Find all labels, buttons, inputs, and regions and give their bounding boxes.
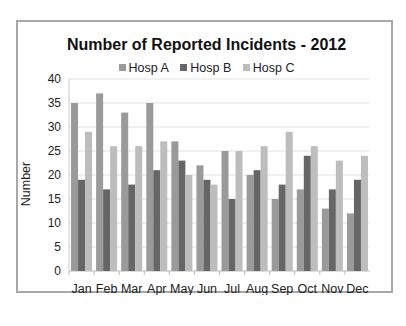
bar-hosp-a bbox=[96, 93, 103, 271]
x-tick-label: Jan bbox=[71, 282, 91, 295]
x-tick-label: Oct bbox=[298, 282, 318, 295]
y-tick-label: 0 bbox=[54, 264, 61, 278]
bar-hosp-a bbox=[247, 175, 254, 271]
bar-hosp-c bbox=[210, 185, 217, 271]
bar-hosp-a bbox=[196, 165, 203, 271]
x-tick-label: Jun bbox=[197, 282, 217, 295]
y-tick-label: 40 bbox=[48, 72, 62, 86]
bar-hosp-a bbox=[347, 213, 354, 271]
y-tick-label: 35 bbox=[48, 96, 62, 110]
y-tick-label: 10 bbox=[48, 216, 62, 230]
bar-hosp-b bbox=[203, 180, 210, 271]
bar-hosp-b bbox=[78, 180, 85, 271]
x-tick-label: Dec bbox=[346, 282, 368, 295]
x-tick-label: Jul bbox=[224, 282, 240, 295]
x-tick-label: Aug bbox=[246, 282, 268, 295]
bar-hosp-c bbox=[311, 146, 318, 271]
bar-hosp-b bbox=[153, 170, 160, 271]
bar-hosp-c bbox=[135, 146, 142, 271]
bar-hosp-c bbox=[110, 146, 117, 271]
y-tick-label: 25 bbox=[48, 144, 62, 158]
x-tick-label: Feb bbox=[96, 282, 118, 295]
bar-hosp-c bbox=[361, 156, 368, 271]
bar-hosp-b bbox=[354, 180, 361, 271]
bar-hosp-a bbox=[322, 209, 329, 271]
bar-hosp-b bbox=[304, 156, 311, 271]
bar-hosp-a bbox=[297, 189, 304, 271]
bar-hosp-a bbox=[121, 113, 128, 271]
chart-frame: Number of Reported Incidents - 2012 Hosp… bbox=[16, 20, 393, 293]
bar-hosp-c bbox=[286, 132, 293, 271]
bar-hosp-b bbox=[103, 189, 110, 271]
bar-hosp-b bbox=[329, 189, 336, 271]
y-tick-label: 5 bbox=[54, 240, 61, 254]
bar-hosp-c bbox=[261, 146, 268, 271]
y-tick-label: 15 bbox=[48, 192, 62, 206]
y-tick-label: 30 bbox=[48, 120, 62, 134]
x-tick-label: Mar bbox=[121, 282, 143, 295]
bar-hosp-b bbox=[279, 185, 286, 271]
bar-hosp-b bbox=[254, 170, 261, 271]
bar-hosp-c bbox=[160, 141, 167, 271]
bar-hosp-a bbox=[71, 103, 78, 271]
bar-hosp-a bbox=[222, 151, 229, 271]
bar-hosp-b bbox=[128, 185, 135, 271]
bar-hosp-a bbox=[272, 199, 279, 271]
bar-hosp-c bbox=[236, 151, 243, 271]
x-tick-label: Nov bbox=[321, 282, 344, 295]
x-tick-label: Apr bbox=[147, 282, 166, 295]
plot-area: 0510152025303540JanFebMarAprMayJunJulAug… bbox=[18, 22, 395, 295]
bar-hosp-c bbox=[336, 161, 343, 271]
bar-hosp-b bbox=[229, 199, 236, 271]
x-tick-label: May bbox=[170, 282, 194, 295]
y-tick-label: 20 bbox=[48, 168, 62, 182]
bar-hosp-b bbox=[178, 161, 185, 271]
x-tick-label: Sep bbox=[271, 282, 293, 295]
bar-hosp-c bbox=[85, 132, 92, 271]
bar-hosp-a bbox=[146, 103, 153, 271]
bar-hosp-c bbox=[185, 175, 192, 271]
bar-hosp-a bbox=[171, 141, 178, 271]
